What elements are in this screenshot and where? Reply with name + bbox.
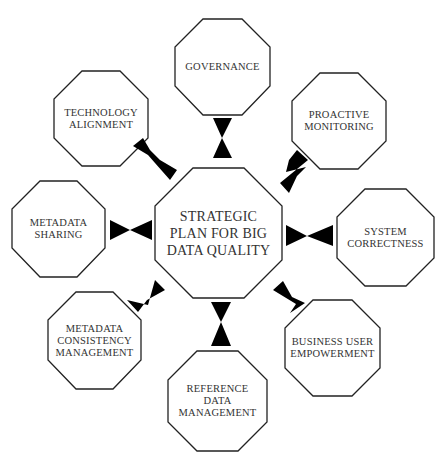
metadata-sharing-label: METADATA SHARING	[12, 181, 105, 277]
business-user-empowerment-label: BUSINESS USER EMPOWERMENT	[285, 300, 380, 396]
connector-top	[213, 118, 232, 158]
diagram-canvas: GOVERNANCE PROACTIVE MONITORING SYSTEM C…	[0, 0, 440, 452]
reference-data-management-label: REFERENCE DATA MANAGEMENT	[168, 351, 267, 451]
connector-left	[110, 220, 152, 240]
proactive-monitoring-label: PROACTIVE MONITORING	[292, 73, 386, 169]
governance-label: GOVERNANCE	[175, 19, 270, 115]
technology-alignment-label: TECHNOLOGY ALIGNMENT	[54, 71, 148, 166]
metadata-consistency-management-label: METADATA CONSISTENCY MANAGEMENT	[48, 292, 141, 389]
system-correctness-label: SYSTEM CORRECTNESS	[337, 189, 434, 286]
connector-bottom	[211, 302, 231, 346]
connector-right	[286, 225, 333, 246]
center-label: STRATEGIC PLAN FOR BIG DATA QUALITY	[155, 168, 282, 298]
